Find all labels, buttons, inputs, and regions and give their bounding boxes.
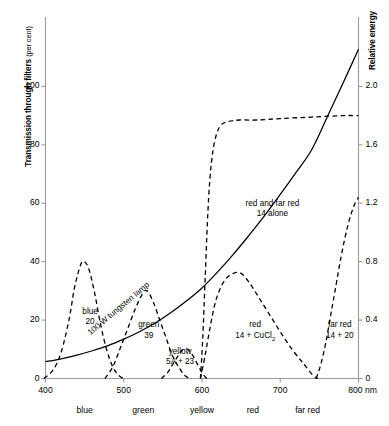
curve-label-fourteen-alone-line2: 14 alone <box>257 209 288 218</box>
spectral-transmission-figure: Transmission through filters (per cent) … <box>0 0 389 426</box>
x-axis-tick-label: 800 nm <box>341 385 385 395</box>
curve-label-red-line1: red <box>249 320 261 329</box>
curve-label-green: green 39 <box>99 320 199 340</box>
x-axis-tick-label: 600 <box>180 385 224 395</box>
curve-label-green-line2: 39 <box>144 331 153 340</box>
curve-label-far-red-line2: 14 + 20 <box>326 331 354 340</box>
curve-label-yellow-line2: 5A + 23 <box>166 357 194 366</box>
y-axis-left-tick-label: 0 <box>6 373 40 383</box>
y-axis-right-tick-label: 2.0 <box>366 80 389 90</box>
curve-label-blue-line1: blue <box>82 307 97 316</box>
curve-label-green-line1: green <box>138 320 159 329</box>
curve-label-yellow-line1: yellow <box>169 347 192 356</box>
y-axis-left-tick-label: 20 <box>6 314 40 324</box>
y-axis-right-tick-label: 0.8 <box>366 256 389 266</box>
curve-label-red-line2: 14 + CuCl2 <box>235 331 275 340</box>
y-axis-right-tick-label: 0 <box>366 373 389 383</box>
y-axis-right-tick-label: 1.6 <box>366 139 389 149</box>
x-axis-tick-label: 500 <box>102 385 146 395</box>
curve-label-far-red-line1: far red <box>328 320 352 329</box>
y-axis-left-tick-label: 40 <box>6 256 40 266</box>
x-axis-tick-label: 400 <box>24 385 68 395</box>
curve-label-red-subscript: 2 <box>272 335 275 341</box>
y-axis-left-tick-label: 100 <box>6 80 40 90</box>
spectral-band-label-far-red: far red <box>273 405 343 415</box>
curve-far-red-14-20 <box>316 197 358 378</box>
x-axis-tick-label: 700 <box>258 385 302 395</box>
curve-label-far-red: far red 14 + 20 <box>290 320 389 340</box>
y-axis-left-tick-label: 60 <box>6 197 40 207</box>
y-axis-right-tick-label: 1.2 <box>366 197 389 207</box>
curve-label-fourteen-alone: red and far red 14 alone <box>222 199 322 219</box>
y-axis-left-tick-label: 80 <box>6 139 40 149</box>
curve-label-fourteen-alone-line1: red and far red <box>246 199 300 208</box>
curve-label-yellow: yellow 5A + 23 <box>130 347 230 367</box>
curve-label-red-formula: 14 + CuCl <box>235 331 272 340</box>
